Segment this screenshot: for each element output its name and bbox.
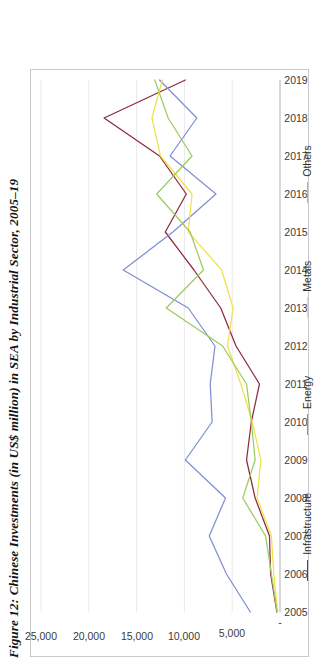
- y-axis-tick-label: 15,000: [121, 630, 153, 642]
- chart-svg: [31, 68, 310, 656]
- series-line-infrastructure: [104, 80, 277, 612]
- legend-item-others[interactable]: Others: [301, 145, 313, 203]
- legend-label: Others: [301, 145, 313, 177]
- legend-item-metals[interactable]: Metals: [301, 261, 313, 318]
- y-axis-tick-label: 5,000: [219, 627, 245, 639]
- legend-swatch-icon: [307, 182, 308, 203]
- legend-item-infrastructure[interactable]: Infrastructure: [301, 493, 313, 581]
- y-axis-tick-label: 20,000: [73, 630, 105, 642]
- chart-frame: -5,00010,00015,00020,00025,0002005200620…: [30, 69, 309, 657]
- figure-caption: Figure 12: Chinese Investments (in US$ m…: [6, 179, 22, 658]
- chart-legend: InfrastructureEnergyMetalsOthers: [296, 69, 318, 657]
- y-axis-tick-label: 25,000: [25, 630, 57, 642]
- legend-swatch-icon: [307, 560, 308, 581]
- legend-label: Infrastructure: [301, 493, 313, 555]
- y-axis-tick-label: 10,000: [168, 630, 200, 642]
- series-line-others: [155, 80, 277, 612]
- y-axis-tick-label: -: [278, 616, 282, 628]
- figure-stage: Figure 12: Chinese Investments (in US$ m…: [0, 0, 321, 662]
- series-line-energy: [123, 80, 250, 612]
- legend-label: Metals: [301, 261, 313, 292]
- legend-swatch-icon: [307, 297, 308, 318]
- legend-item-energy[interactable]: Energy: [301, 376, 313, 435]
- legend-swatch-icon: [307, 414, 308, 435]
- plot-area: -5,00010,00015,00020,00025,0002005200620…: [31, 70, 308, 656]
- legend-label: Energy: [301, 376, 313, 409]
